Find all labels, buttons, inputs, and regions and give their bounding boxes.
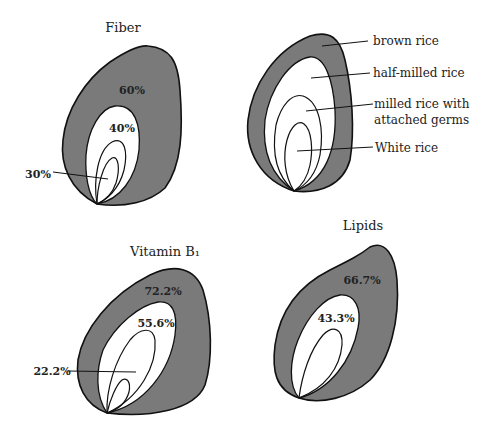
lipids-label-brown: 66.7%: [343, 274, 381, 287]
legend-milled-rice-line2: attached germs: [374, 113, 469, 127]
legend-white-rice: White rice: [375, 141, 438, 155]
fiber-label-white: 30%: [25, 168, 51, 181]
vitamin-b1-label-half-milled: 55.6%: [137, 317, 175, 330]
fiber-title: Fiber: [105, 20, 141, 35]
lipids-diagram: Lipids 66.7% 43.3%: [274, 218, 397, 401]
vitamin-b1-diagram: Vitamin B₁ 72.2% 55.6% 22.2%: [33, 244, 210, 414]
fiber-diagram: Fiber 60% 40% 30%: [25, 20, 181, 205]
vitamin-b1-label-white: 22.2%: [33, 365, 71, 378]
legend-diagram: brown rice half-milled rice milled rice …: [248, 34, 470, 192]
vitamin-b1-title: Vitamin B₁: [129, 244, 200, 259]
vitamin-b1-label-brown: 72.2%: [144, 285, 182, 298]
lipids-title: Lipids: [343, 218, 383, 233]
legend-milled-rice-line1: milled rice with: [374, 97, 470, 111]
legend-half-milled-rice: half-milled rice: [373, 66, 465, 80]
legend-brown-rice: brown rice: [373, 34, 439, 48]
fiber-label-half-milled: 40%: [109, 122, 135, 135]
fiber-label-brown: 60%: [119, 84, 145, 97]
rice-nutrient-diagrams: Fiber 60% 40% 30% brown rice half-milled…: [0, 0, 489, 441]
lipids-label-half-milled: 43.3%: [317, 312, 355, 325]
